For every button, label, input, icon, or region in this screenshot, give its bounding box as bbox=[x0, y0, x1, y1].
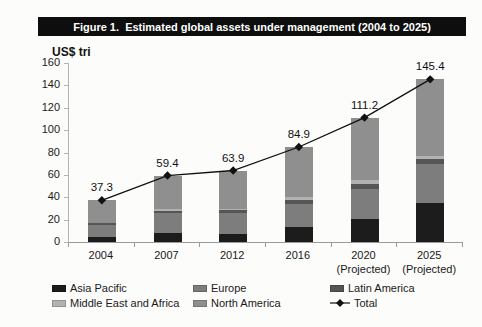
total-line bbox=[102, 79, 430, 200]
y-tick-label: 20 bbox=[18, 213, 60, 225]
total-marker-diamond bbox=[229, 166, 237, 174]
legend-label: North America bbox=[211, 297, 281, 309]
y-tick-label: 40 bbox=[18, 190, 60, 202]
total-line-icon bbox=[330, 298, 350, 308]
total-marker-diamond bbox=[98, 196, 106, 204]
y-tick-mark bbox=[64, 153, 68, 154]
y-tick-label: 0 bbox=[18, 235, 60, 247]
legend-swatch bbox=[330, 285, 344, 292]
total-data-label: 37.3 bbox=[91, 181, 113, 193]
x-tick-mark bbox=[134, 243, 135, 247]
total-marker-diamond bbox=[295, 143, 303, 151]
total-marker-diamond bbox=[163, 171, 171, 179]
y-tick-mark bbox=[64, 175, 68, 176]
y-tick-mark bbox=[64, 197, 68, 198]
legend-label: Europe bbox=[211, 282, 246, 294]
x-tick-mark bbox=[331, 243, 332, 247]
legend-item-north-america: North America bbox=[193, 297, 330, 309]
x-axis-label: 2025(Projected) bbox=[383, 249, 475, 277]
x-axis-label-line: (Projected) bbox=[383, 263, 475, 277]
legend-label: Middle East and Africa bbox=[70, 297, 179, 309]
legend-label: Asia Pacific bbox=[70, 282, 127, 294]
legend-swatch bbox=[52, 285, 66, 292]
y-tick-label: 160 bbox=[18, 56, 60, 68]
x-axis-label-line: 2025 bbox=[383, 249, 475, 263]
figure-title: Figure 1. Estimated global assets under … bbox=[73, 21, 431, 33]
total-data-label: 63.9 bbox=[222, 152, 244, 164]
total-data-label: 145.4 bbox=[416, 60, 445, 72]
total-marker-diamond bbox=[426, 75, 434, 83]
legend-item-middle-east-and-africa: Middle East and Africa bbox=[52, 297, 193, 309]
y-tick-label: 120 bbox=[18, 101, 60, 113]
legend-swatch bbox=[193, 285, 207, 292]
figure-title-bar: Figure 1. Estimated global assets under … bbox=[38, 17, 466, 36]
x-tick-mark bbox=[462, 243, 463, 247]
legend-swatch bbox=[193, 300, 207, 307]
legend-item-total: Total bbox=[330, 297, 462, 309]
y-tick-mark bbox=[64, 63, 68, 64]
legend-swatch bbox=[52, 300, 66, 307]
y-tick-label: 60 bbox=[18, 168, 60, 180]
y-tick-mark bbox=[64, 220, 68, 221]
total-marker-diamond bbox=[360, 113, 368, 121]
x-tick-mark bbox=[396, 243, 397, 247]
y-tick-mark bbox=[64, 108, 68, 109]
total-data-label: 111.2 bbox=[351, 99, 378, 111]
total-data-label: 59.4 bbox=[156, 157, 179, 169]
y-tick-label: 100 bbox=[18, 123, 60, 135]
legend-item-latin-america: Latin America bbox=[330, 282, 462, 294]
y-tick-mark bbox=[64, 85, 68, 86]
x-tick-mark bbox=[265, 243, 266, 247]
total-data-label: 84.9 bbox=[288, 128, 310, 140]
y-tick-label: 140 bbox=[18, 78, 60, 90]
y-tick-mark bbox=[64, 130, 68, 131]
total-line-layer: 37.359.463.984.9111.2145.4 bbox=[69, 63, 463, 242]
x-tick-mark bbox=[199, 243, 200, 247]
legend-label: Total bbox=[354, 297, 377, 309]
y-tick-label: 80 bbox=[18, 146, 60, 158]
x-tick-mark bbox=[68, 243, 69, 247]
legend-item-asia-pacific: Asia Pacific bbox=[52, 282, 193, 294]
legend-label: Latin America bbox=[348, 282, 415, 294]
legend-item-europe: Europe bbox=[193, 282, 330, 294]
legend: Asia PacificEuropeLatin AmericaMiddle Ea… bbox=[52, 282, 462, 309]
plot-area: 37.359.463.984.9111.2145.4 bbox=[68, 63, 463, 243]
